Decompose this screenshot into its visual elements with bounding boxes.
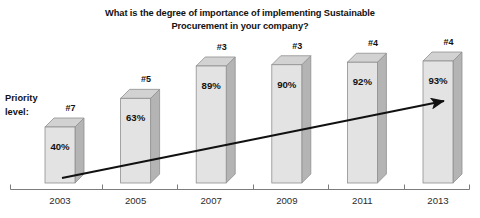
- bar-side-face: [453, 52, 462, 183]
- rank-label-2013: #4: [429, 37, 468, 47]
- rank-label-2009: #3: [278, 41, 317, 51]
- x-axis-line: [11, 185, 470, 190]
- rank-label-2005: #5: [127, 74, 166, 84]
- value-label-2013: 93%: [423, 75, 453, 86]
- bar-2005: [121, 89, 160, 183]
- bar-2011: [347, 53, 386, 183]
- bar-front-face: [121, 98, 151, 183]
- rank-label-2007: #3: [202, 42, 241, 52]
- x-tick-label-2011: 2011: [331, 195, 393, 206]
- x-tick-label-2013: 2013: [407, 195, 469, 206]
- value-label-2005: 63%: [121, 112, 151, 123]
- bar-chart: What is the degree of importance of impl…: [0, 0, 480, 218]
- x-axis: [11, 185, 470, 190]
- bar-side-face: [377, 53, 386, 183]
- bar-2009: [272, 56, 311, 183]
- value-label-2007: 89%: [196, 80, 226, 91]
- x-tick-label-2009: 2009: [256, 195, 318, 206]
- x-tick-label-2003: 2003: [29, 195, 91, 206]
- bar-side-face: [151, 89, 160, 183]
- rank-label-2003: #7: [51, 103, 90, 113]
- bar-side-face: [226, 57, 235, 183]
- rank-label-2011: #4: [353, 38, 392, 48]
- x-tick-label-2007: 2007: [180, 195, 242, 206]
- x-tick-label-2005: 2005: [105, 195, 167, 206]
- bars-group: [45, 52, 462, 183]
- value-label-2003: 40%: [45, 141, 75, 152]
- bar-2007: [196, 57, 235, 183]
- value-label-2009: 90%: [272, 79, 302, 90]
- bar-front-face: [45, 127, 75, 183]
- x-axis-ticks: [103, 185, 405, 190]
- bar-2013: [423, 52, 462, 183]
- bar-side-face: [302, 56, 311, 183]
- value-label-2011: 92%: [347, 76, 377, 87]
